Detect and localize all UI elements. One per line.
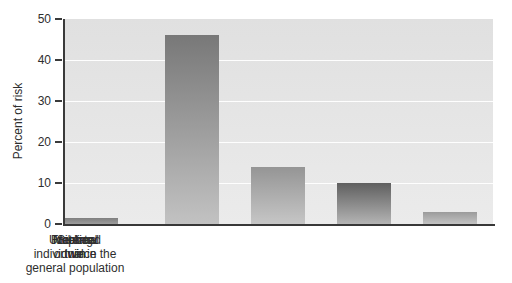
bar-sibling — [337, 183, 391, 224]
y-tick-label: 0 — [11, 217, 51, 231]
tick-mark — [55, 182, 62, 184]
gridline-40 — [64, 60, 493, 61]
tick-mark — [55, 100, 62, 102]
y-tick-label: 50 — [11, 12, 51, 26]
bar-fraternal-twin — [251, 167, 305, 224]
bar-nephew-or-niece — [423, 212, 477, 224]
tick-mark — [55, 59, 62, 61]
y-tick-label: 10 — [11, 176, 51, 190]
tick-mark — [55, 18, 62, 20]
category-label-unrelated-individual: Unrelated individual in the general popu… — [0, 233, 150, 275]
y-tick-label: 30 — [11, 94, 51, 108]
y-tick-label: 20 — [11, 135, 51, 149]
plot-area — [64, 19, 493, 224]
y-axis-line — [63, 19, 65, 224]
tick-mark — [55, 223, 62, 225]
y-tick-label: 40 — [11, 53, 51, 67]
y-axis-ticks: 01020304050 — [0, 19, 63, 224]
bar-identical-twin — [165, 35, 219, 224]
risk-bar-chart: Percent of risk 01020304050 Identical tw… — [0, 0, 512, 283]
x-axis-line — [63, 224, 495, 226]
gridline-20 — [64, 142, 493, 143]
gridline-30 — [64, 101, 493, 102]
tick-mark — [55, 141, 62, 143]
